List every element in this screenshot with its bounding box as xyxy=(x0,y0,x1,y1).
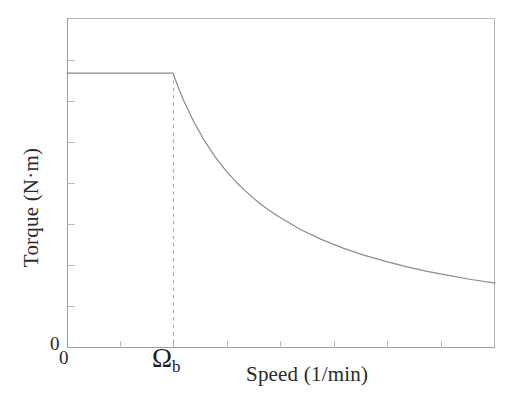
plot-canvas xyxy=(0,0,521,410)
omega-subscript: b xyxy=(172,357,181,376)
plot-frame xyxy=(67,18,495,348)
torque-speed-chart: Speed (1/min) Torque (N·m) 0 0 Ωb xyxy=(0,0,521,410)
base-speed-tick-label: Ωb xyxy=(152,345,181,375)
y-axis-title: Torque (N·m) xyxy=(21,98,42,318)
omega-symbol: Ω xyxy=(152,343,172,373)
y-axis-ticks xyxy=(68,61,75,307)
torque-curve xyxy=(67,73,495,283)
x-axis-title: Speed (1/min) xyxy=(246,364,368,385)
x-axis-origin-label: 0 xyxy=(59,348,69,367)
